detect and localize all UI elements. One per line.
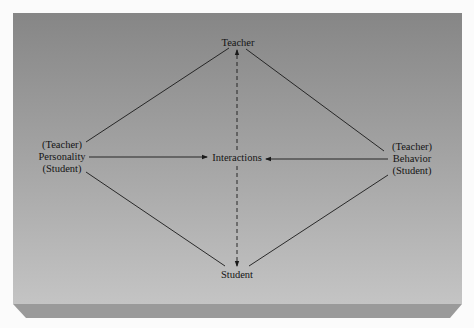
diagram-canvas: Teacher Student Interactions (Teacher) P… <box>0 0 474 328</box>
node-student: Student <box>221 270 253 281</box>
personality-teacher-qualifier: (Teacher) <box>42 140 82 151</box>
panel-bevel <box>13 304 462 318</box>
node-personality: Personality <box>38 152 85 163</box>
personality-student-qualifier: (Student) <box>42 164 81 175</box>
node-teacher: Teacher <box>221 38 254 49</box>
behavior-student-qualifier: (Student) <box>392 166 431 177</box>
node-behavior: Behavior <box>393 154 432 165</box>
node-interactions: Interactions <box>212 153 262 164</box>
behavior-teacher-qualifier: (Teacher) <box>392 142 432 153</box>
